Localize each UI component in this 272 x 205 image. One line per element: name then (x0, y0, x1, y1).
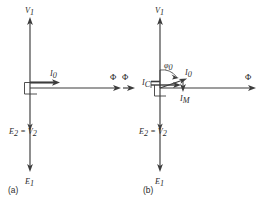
panel-a-vertical-axis (27, 17, 33, 172)
caption-panel-a: (a) (8, 185, 18, 195)
panel-b-vertical-axis (157, 17, 163, 172)
label-flux-left: Φ (122, 72, 129, 82)
label-e1: E1 (24, 177, 34, 188)
panel-a-labels: V1 E1 E2 = V2 I0 Φ (8, 6, 117, 188)
label-i0: I0 (49, 69, 57, 80)
label-flux: Φ (110, 72, 117, 82)
panel-a: V1 E1 E2 = V2 I0 Φ (a) (8, 6, 121, 195)
i0-vector-line (160, 80, 183, 88)
label-e2-v2: E2 = V2 (8, 127, 37, 138)
caption-panel-b: (b) (143, 185, 153, 195)
panel-b-im-vector (180, 80, 186, 92)
label-flux-right: Φ (245, 72, 252, 82)
label-e1: E1 (154, 177, 164, 188)
phasor-diagram-canvas: V1 E1 E2 = V2 I0 Φ (a) (0, 0, 272, 205)
label-v1: V1 (25, 6, 34, 17)
panel-a-flux-axis (30, 85, 121, 91)
label-e2-v2: E2 = V2 (138, 127, 167, 138)
label-v1: V1 (155, 6, 164, 17)
label-ic: IC (141, 78, 151, 89)
label-im: IM (179, 94, 191, 105)
panel-b-labels: V1 E1 E2 = V2 I0 IC IM φ0 Φ Φ (122, 6, 252, 188)
label-i0: I0 (184, 68, 192, 79)
panel-b: V1 E1 E2 = V2 I0 IC IM φ0 Φ Φ (b) (122, 6, 256, 195)
phasor-figure: V1 E1 E2 = V2 I0 Φ (a) (0, 0, 272, 205)
